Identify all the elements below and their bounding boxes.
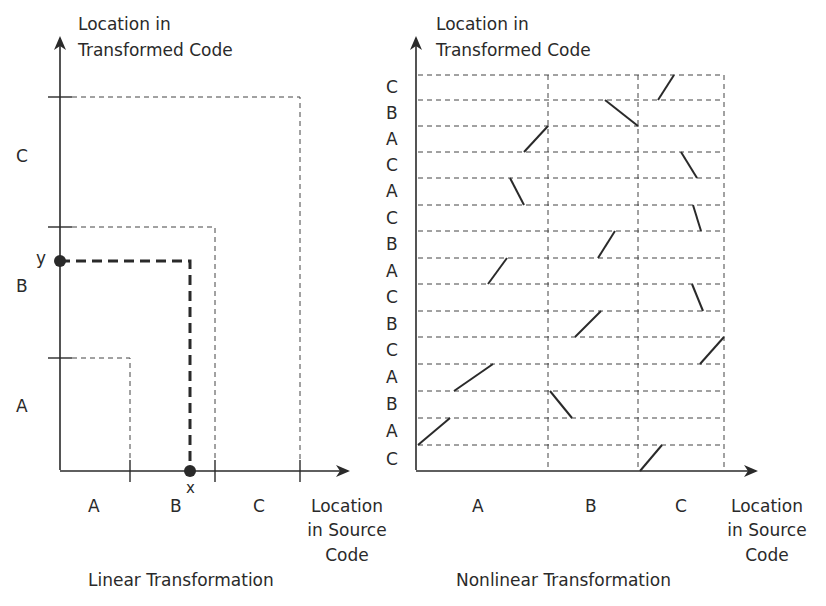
left-x-axis-label-2: in Source (300, 520, 394, 541)
right-row-label: C (386, 340, 398, 361)
right-x-axis-label-3: Code (720, 545, 814, 566)
right-caption: Nonlinear Transformation (456, 570, 671, 591)
left-x-axis-label-3: Code (300, 545, 394, 566)
left-y-axis-label-1: Location in (78, 14, 171, 35)
right-row-label: A (386, 421, 398, 442)
right-x-seg-c: C (675, 496, 687, 517)
right-row-label: C (386, 287, 398, 308)
right-row-label: A (386, 261, 398, 282)
left-x-seg-b: B (170, 496, 182, 517)
mapping-segments (418, 75, 724, 471)
left-y-axis-label-2: Transformed Code (78, 40, 233, 61)
point-y (54, 255, 66, 267)
right-row-label: A (386, 367, 398, 388)
right-y-axis-label-1: Location in (436, 14, 529, 35)
right-y-axis-label-2: Transformed Code (436, 40, 591, 61)
right-row-label: B (386, 234, 398, 255)
right-x-axis-label-2: in Source (720, 520, 814, 541)
left-caption: Linear Transformation (88, 570, 274, 591)
right-x-seg-a: A (472, 496, 484, 517)
right-row-label: B (386, 314, 398, 335)
mapping-path (60, 261, 190, 471)
left-x-seg-c: C (253, 496, 265, 517)
left-x-seg-a: A (88, 496, 100, 517)
nonlinear-chart (416, 38, 756, 471)
diagram-canvas (0, 0, 826, 606)
right-row-label: C (386, 208, 398, 229)
point-y-label: y (36, 248, 46, 269)
left-x-axis-label-1: Location (300, 496, 394, 517)
left-y-seg-c: C (16, 146, 28, 167)
right-row-label: A (386, 181, 398, 202)
right-row-label: A (386, 129, 398, 150)
right-row-label: C (386, 77, 398, 98)
right-row-label: B (386, 394, 398, 415)
point-x (184, 465, 196, 477)
left-y-seg-b: B (16, 276, 28, 297)
right-x-axis-label-1: Location (720, 496, 814, 517)
right-row-label: C (386, 155, 398, 176)
right-row-label: B (386, 103, 398, 124)
right-x-seg-b: B (585, 496, 597, 517)
left-y-seg-a: A (16, 396, 28, 417)
linear-chart (48, 38, 348, 482)
right-row-label: C (386, 449, 398, 470)
point-x-label: x (186, 478, 195, 499)
